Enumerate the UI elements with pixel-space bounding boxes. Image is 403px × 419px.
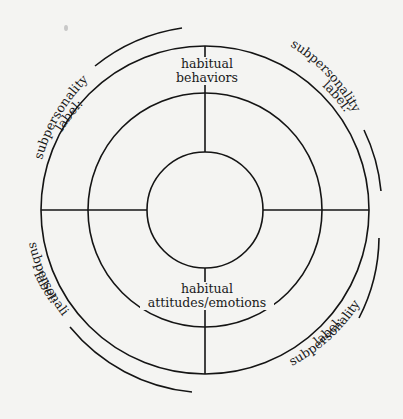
habitual-behaviors-label: habitual behaviors	[166, 57, 248, 85]
inner-ring	[147, 152, 263, 268]
lower-left-label-line1: subpersonality	[0, 0, 72, 318]
habitual-attitudes-line2: attitudes/emotions	[142, 296, 272, 310]
lower-left-writein-arc[interactable]	[70, 327, 192, 392]
habitual-attitudes-label: habitual attitudes/emotions	[140, 282, 274, 310]
habitual-attitudes-line1: habitual	[142, 282, 272, 296]
habitual-behaviors-line2: behaviors	[168, 71, 246, 85]
habitual-behaviors-line1: habitual	[168, 57, 246, 71]
